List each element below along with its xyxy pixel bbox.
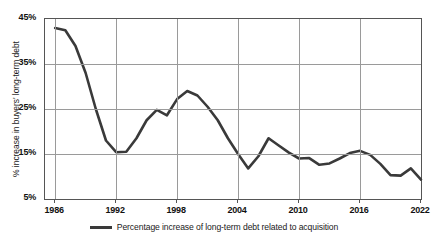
x-tick-label: 2022	[397, 205, 435, 215]
x-tick-mark	[115, 199, 116, 203]
x-tick-mark	[298, 199, 299, 203]
gridline-vertical	[299, 19, 300, 199]
gridline-vertical	[360, 19, 361, 199]
x-tick-label: 2004	[214, 205, 260, 215]
plot-area	[44, 18, 422, 200]
x-tick-mark	[176, 199, 177, 203]
y-tick-label: 5%	[2, 192, 36, 202]
x-tick-label: 1998	[153, 205, 199, 215]
y-tick-label: 25%	[2, 102, 36, 112]
gridline-vertical	[238, 19, 239, 199]
legend-swatch-icon	[90, 226, 112, 229]
gridline-vertical	[116, 19, 117, 199]
y-tick-label: 45%	[2, 12, 36, 22]
x-tick-label: 2016	[336, 205, 382, 215]
x-tick-mark	[359, 199, 360, 203]
gridline-vertical	[55, 19, 56, 199]
y-tick-label: 35%	[2, 57, 36, 67]
x-tick-label: 2010	[275, 205, 321, 215]
x-tick-mark	[237, 199, 238, 203]
x-tick-label: 1986	[31, 205, 77, 215]
legend-label: Percentage increase of long-term debt re…	[117, 222, 338, 232]
x-tick-mark	[54, 199, 55, 203]
x-tick-label: 1992	[92, 205, 138, 215]
legend: Percentage increase of long-term debt re…	[0, 222, 428, 232]
x-tick-mark	[420, 199, 421, 203]
y-tick-label: 15%	[2, 147, 36, 157]
gridline-horizontal	[45, 64, 421, 65]
x-axis-ticks: 1986199219982004201020162022	[44, 200, 422, 216]
gridline-horizontal	[45, 154, 421, 155]
y-axis-ticks: 45%35%25%15%5%	[0, 0, 36, 238]
gridline-horizontal	[45, 109, 421, 110]
gridline-vertical	[177, 19, 178, 199]
